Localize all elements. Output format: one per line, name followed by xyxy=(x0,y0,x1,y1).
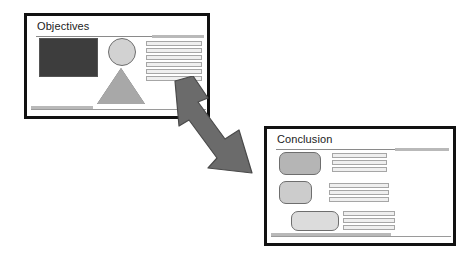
objectives-gray-triangle[interactable] xyxy=(97,68,145,104)
slide-objectives[interactable]: Objectives xyxy=(24,13,210,119)
slide-objectives-title: Objectives xyxy=(37,20,89,32)
objectives-light-circle[interactable] xyxy=(108,38,136,66)
slide-objectives-footer-rule xyxy=(31,109,206,110)
slide-objectives-footer-accent xyxy=(31,106,93,109)
text-line xyxy=(146,41,202,46)
slide-conclusion[interactable]: Conclusion xyxy=(264,126,456,246)
objectives-dark-rectangle[interactable] xyxy=(39,38,98,77)
text-line xyxy=(329,183,389,188)
conclusion-body-lines-2 xyxy=(329,183,389,202)
text-line xyxy=(329,197,389,202)
diagram-canvas: Objectives Conclusion xyxy=(0,0,475,257)
text-line xyxy=(343,218,395,223)
text-line xyxy=(146,55,202,60)
slide-objectives-title-accent xyxy=(152,35,204,38)
text-line xyxy=(146,76,202,81)
slide-conclusion-title-accent xyxy=(395,148,449,151)
conclusion-rounded-rect-2[interactable] xyxy=(279,181,312,204)
conclusion-body-lines-1 xyxy=(332,153,387,172)
text-line xyxy=(332,167,387,172)
text-line xyxy=(146,69,202,74)
text-line xyxy=(329,190,389,195)
slide-conclusion-title: Conclusion xyxy=(277,133,332,145)
conclusion-rounded-rect-3[interactable] xyxy=(291,211,339,231)
text-line xyxy=(332,153,387,158)
conclusion-rounded-rect-1[interactable] xyxy=(279,152,321,175)
slide-conclusion-footer-accent xyxy=(271,233,391,236)
text-line xyxy=(343,225,395,230)
text-line xyxy=(146,62,202,67)
conclusion-body-lines-3 xyxy=(343,211,395,230)
objectives-body-lines xyxy=(146,41,202,81)
text-line xyxy=(343,211,395,216)
text-line xyxy=(332,160,387,165)
text-line xyxy=(146,48,202,53)
slide-conclusion-footer-rule xyxy=(271,236,451,237)
